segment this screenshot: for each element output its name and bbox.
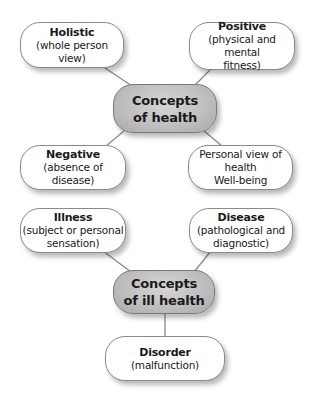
node-illness: Illness (subject or personal sensation) — [20, 208, 126, 253]
node-disorder: Disorder (malfunction) — [105, 336, 225, 381]
node-desc: (physical and mental — [190, 33, 294, 59]
edge-holistic-health — [102, 66, 132, 86]
node-desc: (whole person view) — [21, 39, 123, 65]
node-disease: Disease (pathological and diagnostic) — [189, 208, 293, 253]
edge-health-negative — [106, 131, 124, 146]
node-personal-view: Personal view of health Well-being — [188, 145, 293, 190]
node-desc: (pathological and — [197, 224, 285, 237]
edge-illness-illhealth — [103, 251, 131, 272]
node-desc: (subject or personal — [23, 224, 124, 237]
edge-disease-illhealth — [194, 251, 211, 272]
node-title: Disease — [218, 211, 265, 224]
edge-health-personal — [204, 131, 222, 146]
node-desc: Well-being — [214, 174, 267, 187]
node-desc: diagnostic) — [213, 237, 269, 250]
node-title: Holistic — [50, 26, 95, 39]
node-positive: Positive (physical and mental fitness) — [189, 22, 295, 70]
node-title: Negative — [46, 148, 100, 161]
node-desc: (absence of disease) — [21, 161, 125, 187]
hub-line: Concepts — [131, 275, 197, 292]
node-title: Positive — [218, 20, 266, 33]
node-desc: (malfunction) — [131, 359, 199, 372]
node-holistic: Holistic (whole person view) — [20, 22, 124, 68]
node-desc: sensation) — [47, 237, 100, 250]
hub-line: of ill health — [123, 292, 204, 309]
node-concepts-of-health: Concepts of health — [113, 84, 217, 133]
hub-line: Concepts — [132, 92, 198, 109]
node-negative: Negative (absence of disease) — [20, 145, 126, 190]
node-desc: fitness) — [223, 59, 260, 72]
node-desc: Personal view of health — [189, 148, 292, 174]
hub-line: of health — [133, 109, 197, 126]
node-title: Disorder — [139, 346, 191, 359]
node-title: Illness — [54, 211, 93, 224]
node-concepts-of-ill-health: Concepts of ill health — [113, 270, 215, 314]
